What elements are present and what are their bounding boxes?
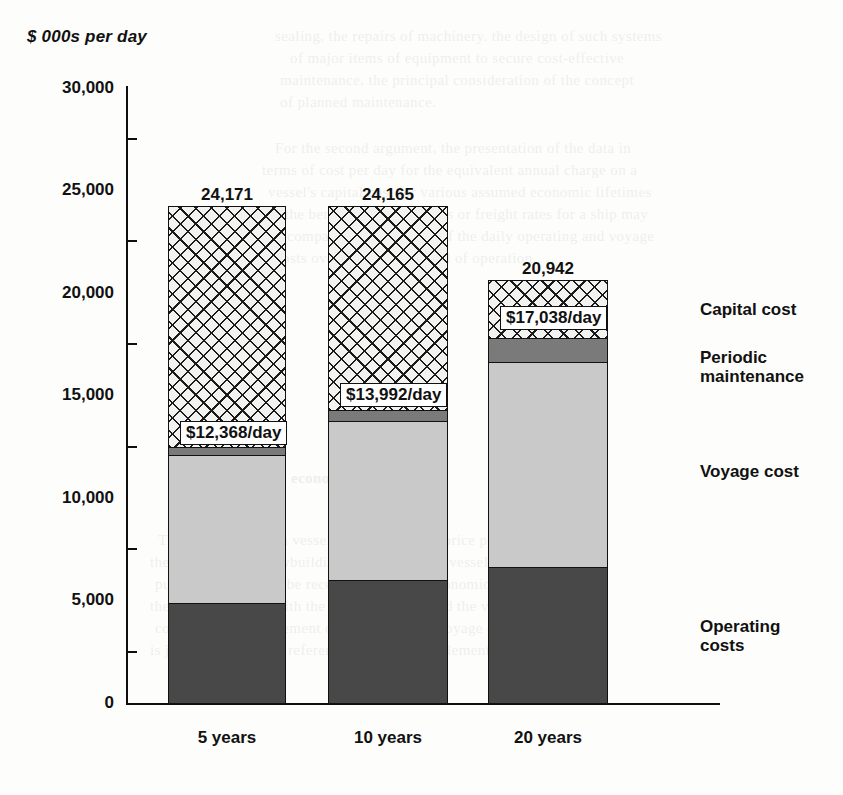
y-axis-title: $ 000s per day xyxy=(27,27,147,47)
bar-segment-voyage-cost xyxy=(328,421,448,581)
bar-segment-capital-cost xyxy=(328,206,448,411)
chart-container: sealing, the repairs of machinery. the d… xyxy=(0,0,843,795)
x-category-label-5-years: 5 years xyxy=(167,728,287,748)
background-text-line: for the benefit of charter rates or frei… xyxy=(262,206,648,223)
legend-label-capital-cost: Capital cost xyxy=(700,300,796,319)
bar-segment-operating-costs xyxy=(488,567,608,704)
background-text-line: vessel's capital cost for various assume… xyxy=(268,184,652,201)
y-tick-label-25000: 25,000 xyxy=(0,180,114,200)
y-axis-minor-tick xyxy=(128,548,137,550)
y-axis-minor-tick xyxy=(128,138,137,140)
bar-segment-operating-costs xyxy=(328,580,448,704)
background-text-line: be compared with the sum of the daily op… xyxy=(268,228,654,245)
bar-segment-voyage-cost xyxy=(168,455,286,604)
background-text-line: sealing, the repairs of machinery. the d… xyxy=(275,28,662,45)
y-axis-line xyxy=(126,86,128,705)
bar-segment-capital-cost xyxy=(168,206,286,448)
y-tick-label-0: 0 xyxy=(0,693,114,713)
background-text-line: of planned maintenance. xyxy=(280,94,436,111)
y-axis-minor-tick xyxy=(128,343,137,345)
bar-segment-periodic-maintenance xyxy=(488,338,608,363)
y-tick-label-20000: 20,000 xyxy=(0,283,114,303)
y-axis-minor-tick xyxy=(128,651,137,653)
y-tick-label-5000: 5,000 xyxy=(0,590,114,610)
y-tick-label-15000: 15,000 xyxy=(0,385,114,405)
y-axis-minor-tick xyxy=(128,446,137,448)
y-tick-label-30000: 30,000 xyxy=(0,78,114,98)
bar-callout-per-day: $12,368/day xyxy=(180,421,287,445)
background-text-line: of major items of equipment to secure co… xyxy=(290,50,624,67)
x-category-label-20-years: 20 years xyxy=(487,728,609,748)
y-tick-label-10000: 10,000 xyxy=(0,488,114,508)
legend-label-periodic-maintenance: Periodic maintenance xyxy=(700,348,804,386)
bar-segment-voyage-cost xyxy=(488,362,608,568)
bar-total-label: 20,942 xyxy=(487,259,609,279)
legend-label-voyage-cost: Voyage cost xyxy=(700,462,799,481)
background-text-line: terms of cost per day for the equivalent… xyxy=(262,162,637,179)
bar-callout-per-day: $13,992/day xyxy=(340,383,447,407)
bar-total-label: 24,165 xyxy=(327,185,449,205)
y-axis-minor-tick xyxy=(128,240,137,242)
background-text-line: For the second argument, the presentatio… xyxy=(275,140,631,157)
bar-segment-operating-costs xyxy=(168,603,286,704)
bar-callout-per-day: $17,038/day xyxy=(500,306,607,330)
legend-label-operating-costs: Operating costs xyxy=(700,617,780,655)
x-category-label-10-years: 10 years xyxy=(327,728,449,748)
bar-total-label: 24,171 xyxy=(167,185,287,205)
background-text-line: maintenance, the principal consideration… xyxy=(280,72,634,89)
